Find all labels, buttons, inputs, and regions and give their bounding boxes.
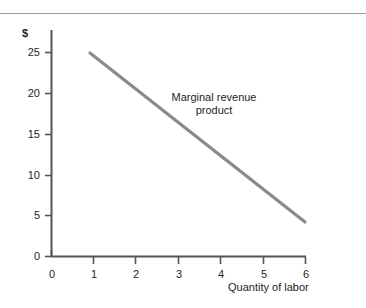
x-tick-label-0: 0 (42, 268, 62, 280)
x-tick-label-6: 6 (296, 268, 316, 280)
marginal-revenue-product-line (90, 53, 305, 222)
y-axis-currency-symbol: $ (22, 27, 28, 39)
x-tick-label-1: 1 (84, 268, 104, 280)
y-tick-label-0: 0 (16, 250, 40, 262)
x-tick-label-3: 3 (169, 268, 189, 280)
y-tick-label-15: 15 (16, 128, 40, 140)
y-tick-label-10: 10 (16, 169, 40, 181)
annotation-line-2: product (160, 104, 268, 117)
y-tick-label-20: 20 (16, 87, 40, 99)
x-tick-label-2: 2 (126, 268, 146, 280)
chart-screen: $ 25 20 15 10 5 0 0 1 2 3 4 5 6 Quantity… (0, 0, 366, 308)
x-tick-label-5: 5 (254, 268, 274, 280)
y-tick-label-5: 5 (16, 209, 40, 221)
annotation-line-1: Marginal revenue (160, 91, 268, 104)
x-tick-label-4: 4 (211, 268, 231, 280)
y-tick-label-25: 25 (16, 46, 40, 58)
chart-plot-area (0, 0, 366, 308)
x-axis-title: Quantity of labor (228, 281, 309, 293)
marginal-revenue-product-label: Marginal revenue product (160, 91, 268, 117)
